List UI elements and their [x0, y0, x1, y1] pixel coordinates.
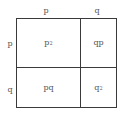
cell-p-squared: p2	[17, 19, 80, 67]
column-header-q: q	[91, 7, 103, 15]
row-header-q: q	[4, 86, 16, 94]
cell-qp-label: qp	[93, 39, 103, 47]
cell-q-squared: q2	[81, 68, 116, 107]
column-header-p: p	[40, 7, 52, 15]
cell-pq: pq	[17, 68, 80, 107]
row-header-p: p	[4, 40, 16, 48]
cell-qp: qp	[81, 19, 116, 67]
cell-pq-label: pq	[43, 84, 53, 92]
